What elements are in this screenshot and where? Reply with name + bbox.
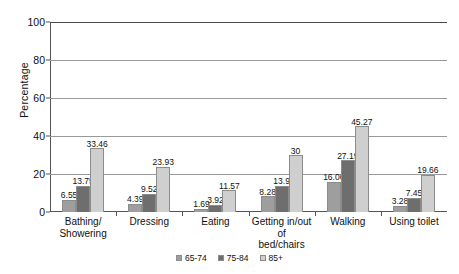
category-label-line: Showering bbox=[51, 228, 115, 240]
bar-value-label: 4.39 bbox=[127, 195, 144, 204]
bar[interactable]: 8.28 bbox=[261, 196, 275, 212]
legend: 65-7475-8485+ bbox=[0, 253, 459, 263]
y-tick-label-80: 80 bbox=[33, 54, 45, 66]
x-axis-category-label: Using toilet bbox=[381, 216, 447, 251]
legend-label: 65-74 bbox=[185, 253, 207, 263]
bar[interactable]: 19.66 bbox=[421, 175, 435, 212]
category-label-line: bed/chairs bbox=[250, 239, 314, 251]
y-tick-label-40: 40 bbox=[33, 130, 45, 142]
bar[interactable]: 1.69 bbox=[194, 209, 208, 212]
category-label-line: Getting in/out of bbox=[250, 216, 314, 239]
x-axis-category-label: Bathing/Showering bbox=[50, 216, 116, 251]
x-axis-category-label: Dressing bbox=[116, 216, 182, 251]
category-label-line: Bathing/ bbox=[51, 216, 115, 228]
bar[interactable]: 30 bbox=[289, 155, 303, 212]
x-axis-category-labels: Bathing/ShoweringDressingEatingGetting i… bbox=[50, 216, 447, 251]
bar[interactable]: 16.06 bbox=[327, 182, 341, 213]
bar[interactable]: 45.27 bbox=[355, 126, 369, 212]
bar[interactable]: 7.45 bbox=[407, 198, 421, 212]
bar[interactable]: 6.55 bbox=[62, 200, 76, 212]
bar-value-label: 3.28 bbox=[392, 197, 409, 206]
legend-swatch-icon bbox=[218, 255, 224, 261]
bar-group-bars: 8.2813.930 bbox=[261, 22, 303, 212]
bar[interactable]: 33.46 bbox=[90, 148, 104, 212]
legend-swatch-icon bbox=[260, 255, 266, 261]
bar-group: 1.693.9211.57 bbox=[182, 22, 248, 212]
x-axis-category-label: Eating bbox=[182, 216, 248, 251]
bar-group: 4.399.5223.93 bbox=[116, 22, 182, 212]
x-axis-category-label: Getting in/out ofbed/chairs bbox=[249, 216, 315, 251]
bar-value-label: 13.9 bbox=[273, 177, 290, 186]
bar-value-label: 45.27 bbox=[351, 118, 372, 127]
bar[interactable]: 11.57 bbox=[222, 190, 236, 212]
bar-chart: Percentage 020406080100 6.5513.7533.464.… bbox=[0, 0, 459, 274]
bar-value-label: 3.92 bbox=[207, 196, 224, 205]
y-tick-label-100: 100 bbox=[27, 16, 45, 28]
bar-value-label: 6.55 bbox=[61, 191, 78, 200]
bar-value-label: 23.93 bbox=[153, 158, 174, 167]
bar-groups: 6.5513.7533.464.399.5223.931.693.9211.57… bbox=[50, 22, 447, 212]
bar[interactable]: 3.28 bbox=[393, 206, 407, 212]
bar-group-bars: 1.693.9211.57 bbox=[194, 22, 236, 212]
bar[interactable]: 13.9 bbox=[275, 186, 289, 212]
bar[interactable]: 27.19 bbox=[341, 160, 355, 212]
bar-value-label: 33.46 bbox=[86, 140, 107, 149]
category-label-line: Dressing bbox=[117, 216, 181, 228]
bar-group-bars: 16.0627.1945.27 bbox=[327, 22, 369, 212]
legend-label: 85+ bbox=[269, 253, 283, 263]
bar[interactable]: 23.93 bbox=[156, 167, 170, 212]
category-label-line: Walking bbox=[316, 216, 380, 228]
legend-item[interactable]: 85+ bbox=[260, 253, 283, 263]
category-label-line: Eating bbox=[183, 216, 247, 228]
legend-item[interactable]: 65-74 bbox=[176, 253, 207, 263]
bar-group-bars: 4.399.5223.93 bbox=[128, 22, 170, 212]
bar-group: 8.2813.930 bbox=[249, 22, 315, 212]
bar[interactable]: 4.39 bbox=[128, 204, 142, 212]
bar-value-label: 7.45 bbox=[406, 189, 423, 198]
bar-group: 16.0627.1945.27 bbox=[315, 22, 381, 212]
x-axis-category-label: Walking bbox=[315, 216, 381, 251]
y-tick-label-0: 0 bbox=[39, 206, 45, 218]
bar-value-label: 11.57 bbox=[219, 182, 240, 191]
bar-value-label: 19.66 bbox=[417, 166, 438, 175]
plot-area: 020406080100 6.5513.7533.464.399.5223.93… bbox=[50, 22, 447, 212]
y-axis-title: Percentage bbox=[18, 30, 30, 150]
bar[interactable]: 3.92 bbox=[208, 205, 222, 212]
bar-group-bars: 6.5513.7533.46 bbox=[62, 22, 104, 212]
bar-group: 3.287.4519.66 bbox=[381, 22, 447, 212]
legend-label: 75-84 bbox=[227, 253, 249, 263]
bar-group-bars: 3.287.4519.66 bbox=[393, 22, 435, 212]
bar-group: 6.5513.7533.46 bbox=[50, 22, 116, 212]
bar-value-label: 9.52 bbox=[141, 185, 158, 194]
legend-swatch-icon bbox=[176, 255, 182, 261]
y-tick-label-60: 60 bbox=[33, 92, 45, 104]
bar[interactable]: 9.52 bbox=[142, 194, 156, 212]
legend-item[interactable]: 75-84 bbox=[218, 253, 249, 263]
bar-value-label: 8.28 bbox=[259, 188, 276, 197]
bar[interactable]: 13.75 bbox=[76, 186, 90, 212]
category-label-line: Using toilet bbox=[382, 216, 446, 228]
bar-value-label: 30 bbox=[291, 147, 300, 156]
y-tick-label-20: 20 bbox=[33, 168, 45, 180]
